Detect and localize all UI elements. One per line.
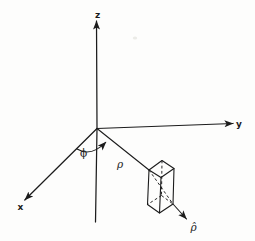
- z-axis-label: z: [95, 10, 100, 20]
- volume-element-box: [148, 161, 175, 214]
- z-axis: [96, 21, 98, 222]
- x-axis-label: x: [17, 202, 23, 212]
- cylindrical-coordinates-diagram: z y x ϕ ρ ρ̂: [0, 0, 255, 241]
- y-axis-label: y: [236, 119, 242, 129]
- rho-unit-vector-label: ρ̂: [189, 221, 197, 233]
- rho-hat-arrow: [173, 204, 187, 219]
- box-right-face: [160, 169, 175, 214]
- x-axis: [25, 129, 97, 201]
- phi-angle-label: ϕ: [80, 147, 87, 159]
- rho-distance-label: ρ: [116, 158, 124, 170]
- y-axis: [97, 124, 233, 129]
- rho-line-through-box: [149, 170, 173, 204]
- figure-canvas: z y x ϕ ρ ρ̂: [0, 0, 255, 241]
- scan-speck: [133, 36, 137, 39]
